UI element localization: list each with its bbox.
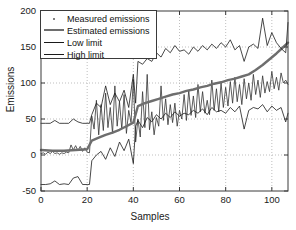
legend-item-measured: Measured emissions xyxy=(41,13,150,25)
y-tick-label: 50 xyxy=(6,113,36,124)
legend-label-measured: Measured emissions xyxy=(67,13,150,25)
legend-item-estimated: Estimated emissions xyxy=(41,25,150,37)
legend-label-estimated: Estimated emissions xyxy=(67,25,150,37)
legend-marker-dot-icon xyxy=(41,13,67,25)
chart-legend: Measured emissions Estimated emissions L… xyxy=(40,10,157,59)
legend-marker-line-icon xyxy=(41,49,67,61)
y-tick-label: 200 xyxy=(6,5,36,16)
x-tick-label: 40 xyxy=(118,194,148,205)
x-tick-label: 100 xyxy=(257,194,287,205)
chart-figure: Emissions Samples -50050100150200 020406… xyxy=(0,0,296,230)
x-tick-label: 0 xyxy=(26,194,56,205)
x-tick-label: 80 xyxy=(211,194,241,205)
y-tick-label: 150 xyxy=(6,41,36,52)
x-axis-label: Samples xyxy=(115,211,185,222)
x-tick-label: 60 xyxy=(165,194,195,205)
legend-marker-line-icon xyxy=(41,37,67,49)
legend-label-low-limit: Low limit xyxy=(67,37,102,49)
legend-marker-line-icon xyxy=(41,25,67,37)
legend-label-high-limit: High limit xyxy=(67,49,104,61)
legend-item-high-limit: High limit xyxy=(41,49,104,61)
y-tick-label: 0 xyxy=(6,149,36,160)
y-axis-label: Emissions xyxy=(5,58,16,122)
y-tick-label: 100 xyxy=(6,77,36,88)
legend-item-low-limit: Low limit xyxy=(41,37,102,49)
x-tick-label: 20 xyxy=(72,194,102,205)
